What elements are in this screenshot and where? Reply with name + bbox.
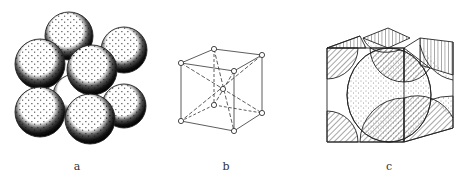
lattice-point [211,102,216,107]
lattice-point-center [220,86,225,91]
bcc-sectioned-unit-cell [308,0,462,184]
lattice-point [178,118,183,123]
sphere-packing-illustration [0,0,154,184]
bcc-lattice-wireframe [154,0,308,184]
cube-edge [234,55,262,71]
lattice-point [231,128,236,133]
panel-c: c [308,0,462,184]
lattice-point [178,60,183,65]
panel-b: b [154,0,308,184]
lattice-point [259,52,264,57]
cube-edge [181,63,234,71]
lattice-point [231,68,236,73]
lattice-point [211,46,216,51]
panel-a: a [0,0,154,184]
panel-label-a: a [67,160,87,173]
lattice-point [259,110,264,115]
cube-edge [181,49,214,63]
cube-edge [181,105,214,121]
cube-edge [214,49,262,55]
cube-edge [181,121,234,131]
panel-label-c: c [379,160,399,173]
panel-label-b: b [216,160,236,173]
cube-edge [234,113,262,131]
